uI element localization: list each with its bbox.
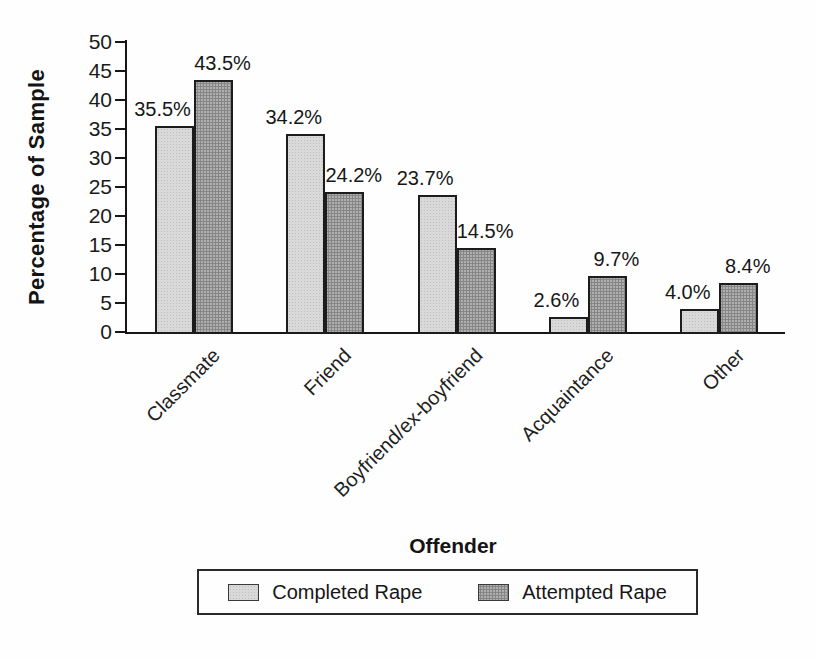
x-axis-category-label: Other: [698, 344, 750, 396]
bar-completed: [286, 134, 325, 334]
y-axis-tick: [115, 70, 125, 72]
y-axis-tick: [115, 99, 125, 101]
bar-value-label: 23.7%: [397, 167, 454, 189]
y-axis-tick: [115, 302, 125, 304]
y-axis-title: Percentage of Sample: [24, 69, 50, 305]
y-axis-tick: [115, 244, 125, 246]
bar-attempted: [719, 283, 758, 334]
legend-item: Completed Rape: [228, 581, 422, 604]
legend-label: Attempted Rape: [522, 581, 667, 604]
bar-completed: [155, 126, 194, 334]
y-axis-tick-label: 50: [58, 31, 112, 53]
y-axis-tick-label: 25: [58, 176, 112, 198]
y-axis-tick-label: 35: [58, 118, 112, 140]
x-axis-title: Offender: [409, 534, 497, 558]
bar-value-label: 2.6%: [534, 289, 580, 311]
bar-value-label: 43.5%: [194, 52, 251, 74]
bar-value-label: 8.4%: [725, 255, 771, 277]
y-axis-tick: [115, 273, 125, 275]
bar-completed: [549, 317, 588, 334]
legend-item: Attempted Rape: [478, 581, 667, 604]
legend-swatch-completed: [228, 584, 259, 601]
y-axis-tick: [115, 128, 125, 130]
bar-value-label: 24.2%: [325, 164, 382, 186]
y-axis-tick: [115, 41, 125, 43]
y-axis-tick: [115, 215, 125, 217]
y-axis-tick-label: 15: [58, 234, 112, 256]
bar-attempted: [325, 192, 364, 334]
legend: Completed RapeAttempted Rape: [197, 569, 698, 615]
y-axis-tick-label: 45: [58, 60, 112, 82]
bar-value-label: 9.7%: [594, 248, 640, 270]
plot-area: 0510152025303540455035.5%43.5%Classmate3…: [0, 0, 817, 659]
bar-value-label: 4.0%: [665, 281, 711, 303]
y-axis-tick-label: 40: [58, 89, 112, 111]
y-axis-tick: [115, 331, 125, 333]
bar-value-label: 35.5%: [134, 98, 191, 120]
bar-attempted: [194, 80, 233, 334]
x-axis-category-label: Friend: [299, 344, 355, 400]
bar-completed: [418, 195, 457, 334]
x-axis-category-label: Acquaintance: [516, 344, 618, 446]
y-axis-tick: [115, 157, 125, 159]
legend-swatch-attempted: [478, 584, 509, 601]
legend-label: Completed Rape: [272, 581, 422, 604]
x-axis-category-label: Classmate: [141, 344, 224, 427]
bar-chart: 0510152025303540455035.5%43.5%Classmate3…: [0, 0, 817, 659]
y-axis-tick-label: 10: [58, 263, 112, 285]
bar-value-label: 34.2%: [265, 106, 322, 128]
bar-completed: [680, 309, 719, 334]
y-axis-line: [125, 40, 127, 334]
bar-attempted: [457, 248, 496, 334]
bar-attempted: [588, 276, 627, 334]
bar-value-label: 14.5%: [457, 220, 514, 242]
y-axis-tick: [115, 186, 125, 188]
y-axis-tick-label: 0: [58, 321, 112, 343]
y-axis-tick-label: 20: [58, 205, 112, 227]
x-axis-category-label: Boyfriend/ex-boyfriend: [329, 344, 487, 502]
y-axis-tick-label: 5: [58, 292, 112, 314]
y-axis-tick-label: 30: [58, 147, 112, 169]
